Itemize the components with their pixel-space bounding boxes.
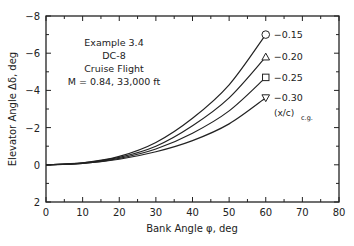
x-axis-label: Bank Angle φ, deg — [146, 223, 238, 234]
square-marker-icon — [263, 74, 269, 80]
annotation-line: Cruise Flight — [84, 63, 144, 74]
circle-marker-icon — [262, 31, 270, 39]
x-tick-label: 20 — [113, 207, 126, 218]
x-tick-label: 70 — [296, 207, 309, 218]
x-tick-label: 30 — [150, 207, 163, 218]
y-tick-label: −6 — [25, 48, 40, 59]
annotation-block: Example 3.4DC-8Cruise FlightM = 0.84, 33… — [68, 37, 161, 87]
y-tick-label: −2 — [25, 123, 40, 134]
y-tick-label: −8 — [25, 11, 40, 22]
series-line — [46, 35, 266, 165]
annotation-line: DC-8 — [102, 50, 125, 61]
series-lines — [46, 35, 266, 165]
series-label: −0.15 — [274, 29, 303, 40]
annotation-line: M = 0.84, 33,000 ft — [68, 76, 161, 87]
x-tick-label: 40 — [186, 207, 199, 218]
series-label: −0.25 — [274, 72, 303, 83]
series-label: −0.30 — [274, 92, 303, 103]
y-tick-label: 0 — [34, 160, 40, 171]
series-label: −0.20 — [274, 51, 303, 62]
legend-title-text: (x/c) — [274, 108, 294, 118]
x-tick-label: 60 — [259, 207, 272, 218]
legend-title: (x/c)c.g. — [274, 108, 313, 122]
series-markers: −0.15−0.20−0.25−0.30 — [262, 29, 303, 103]
triangle-marker-icon — [262, 53, 270, 60]
x-tick-label: 50 — [223, 207, 236, 218]
x-tick-label: 0 — [43, 207, 49, 218]
x-tick-label: 80 — [333, 207, 346, 218]
y-axis-label: Elevator Angle Δδ, deg — [7, 52, 18, 166]
triangle-down-marker-icon — [262, 95, 270, 102]
annotation-line: Example 3.4 — [84, 37, 143, 48]
y-tick-label: 2 — [34, 197, 40, 208]
y-tick-label: −4 — [25, 85, 40, 96]
legend-title-subscript: c.g. — [301, 114, 313, 122]
chart: 01020304050607080 −8−6−4−202 −0.15−0.20−… — [0, 0, 354, 246]
x-tick-label: 10 — [76, 207, 89, 218]
